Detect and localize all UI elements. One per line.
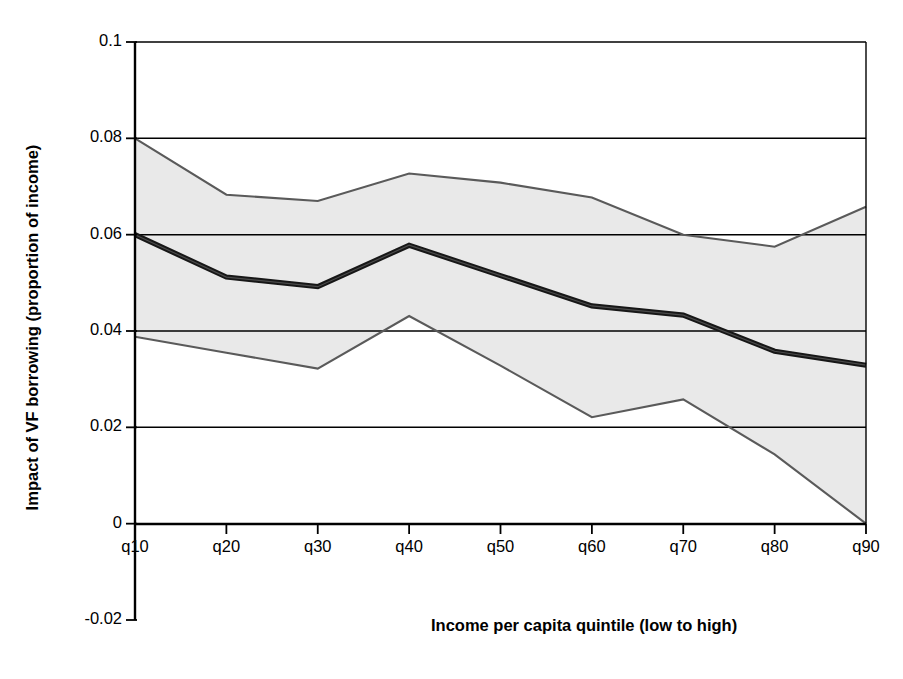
chart-plot-area (0, 0, 903, 679)
x-tick-label: q90 (831, 537, 901, 556)
x-tick-marks (135, 524, 866, 534)
y-tick-label: 0.02 (42, 416, 122, 435)
x-axis-title: Income per capita quintile (low to high) (431, 616, 737, 635)
y-tick-label: 0.1 (42, 31, 122, 50)
y-tick-label: -0.02 (42, 609, 122, 628)
chart-figure: 0.10.080.060.040.020-0.02 q10q20q30q40q5… (0, 0, 903, 679)
x-tick-label: q20 (191, 537, 261, 556)
x-tick-label: q60 (557, 537, 627, 556)
x-tick-label: q70 (648, 537, 718, 556)
y-tick-label: 0.08 (42, 127, 122, 146)
y-tick-label: 0.04 (42, 320, 122, 339)
x-tick-label: q10 (100, 537, 170, 556)
y-axis-title: Impact of VF borrowing (proportion of in… (23, 108, 42, 548)
x-tick-label: q80 (740, 537, 810, 556)
y-tick-label: 0 (42, 513, 122, 532)
x-tick-label: q30 (283, 537, 353, 556)
y-tick-label: 0.06 (42, 224, 122, 243)
x-tick-label: q40 (374, 537, 444, 556)
x-tick-label: q50 (466, 537, 536, 556)
